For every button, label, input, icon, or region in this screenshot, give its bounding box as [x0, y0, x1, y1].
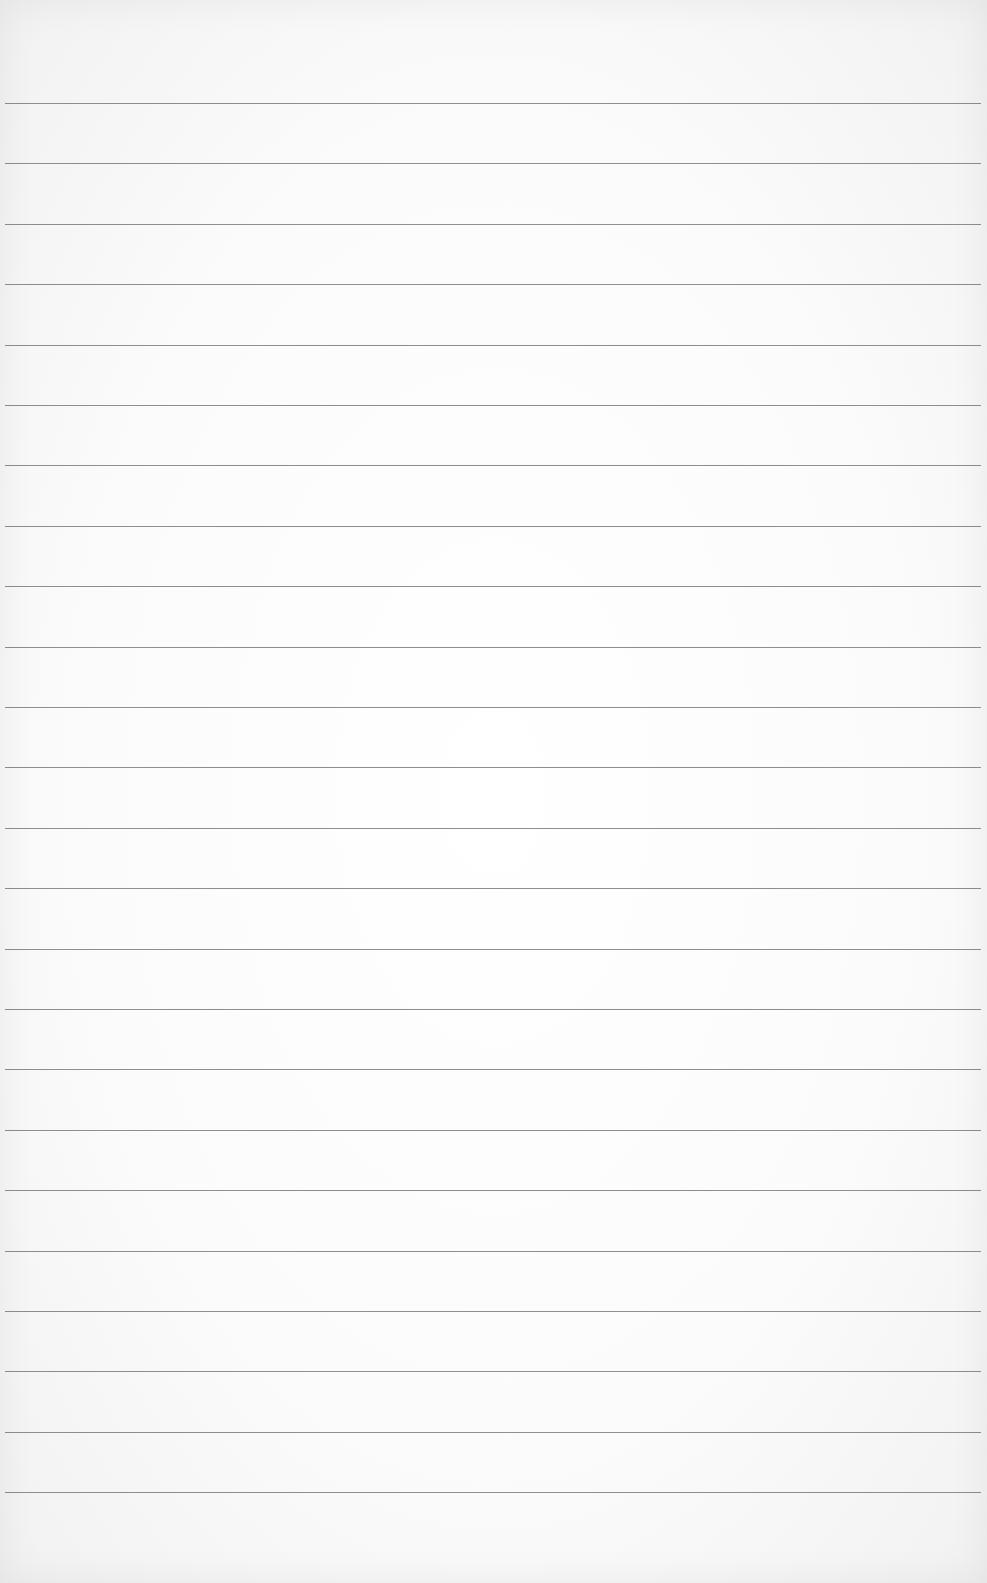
- ruled-line: [5, 526, 981, 527]
- ruled-line: [5, 647, 981, 648]
- paper-edge-shading: [0, 0, 987, 1583]
- ruled-line: [5, 949, 981, 950]
- ruled-line: [5, 1311, 981, 1312]
- ruled-line: [5, 1190, 981, 1191]
- ruled-line: [5, 888, 981, 889]
- ruled-line: [5, 1069, 981, 1070]
- ruled-line: [5, 103, 981, 104]
- ruled-line: [5, 1009, 981, 1010]
- ruled-line: [5, 707, 981, 708]
- ruled-line: [5, 767, 981, 768]
- ruled-line: [5, 224, 981, 225]
- ruled-line: [5, 586, 981, 587]
- ruled-line: [5, 1432, 981, 1433]
- ruled-line: [5, 284, 981, 285]
- ruled-line: [5, 345, 981, 346]
- ruled-line: [5, 163, 981, 164]
- ruled-line: [5, 405, 981, 406]
- ruled-line: [5, 465, 981, 466]
- ruled-line: [5, 1492, 981, 1493]
- ruled-line: [5, 828, 981, 829]
- ruled-line: [5, 1251, 981, 1252]
- ruled-line: [5, 1130, 981, 1131]
- ruled-line: [5, 1371, 981, 1372]
